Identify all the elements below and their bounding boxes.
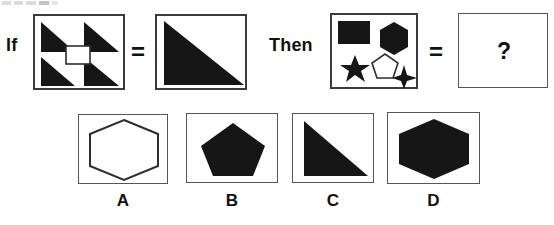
premise-source-panel — [33, 14, 125, 90]
option-panel-b[interactable] — [186, 113, 278, 183]
option-panel-a[interactable] — [78, 114, 168, 184]
premise-result-panel — [155, 14, 247, 90]
option-c-shape — [304, 121, 368, 176]
option-label-a: A — [78, 192, 168, 209]
four-triangles-with-square-graphic — [35, 16, 127, 92]
option-panel-c[interactable] — [292, 113, 374, 183]
pentagon-filled-graphic — [187, 114, 279, 184]
then-label: Then — [269, 36, 313, 54]
analogy-puzzle: If = Then = ? — [0, 0, 554, 225]
option-panel-d[interactable] — [387, 112, 480, 184]
query-source-panel — [330, 13, 418, 89]
cropped-text-artifact — [2, 1, 58, 5]
square-center-shape — [66, 46, 90, 64]
mixed-shapes-graphic — [332, 15, 420, 91]
equals-sign-1: = — [131, 40, 145, 64]
pentagon-shape — [372, 54, 398, 78]
question-mark: ? — [459, 14, 549, 89]
triangle-filled-graphic — [293, 114, 375, 184]
option-label-d: D — [387, 192, 480, 209]
option-label-b: B — [186, 192, 278, 209]
hexagon-filled-graphic — [388, 113, 481, 185]
if-label: If — [6, 36, 17, 54]
rectangle-shape — [338, 21, 370, 44]
hexagon-outline-graphic — [79, 115, 169, 185]
option-label-c: C — [292, 192, 374, 209]
query-result-panel: ? — [458, 13, 548, 88]
large-black-triangle-graphic — [157, 16, 249, 92]
option-a-shape — [90, 120, 158, 180]
option-d-shape — [399, 119, 469, 179]
triangle-large-shape — [164, 21, 244, 85]
equals-sign-2: = — [429, 40, 443, 64]
six-point-star-shape — [340, 55, 370, 82]
hexagon-shape — [380, 22, 408, 55]
option-b-shape — [201, 123, 265, 176]
